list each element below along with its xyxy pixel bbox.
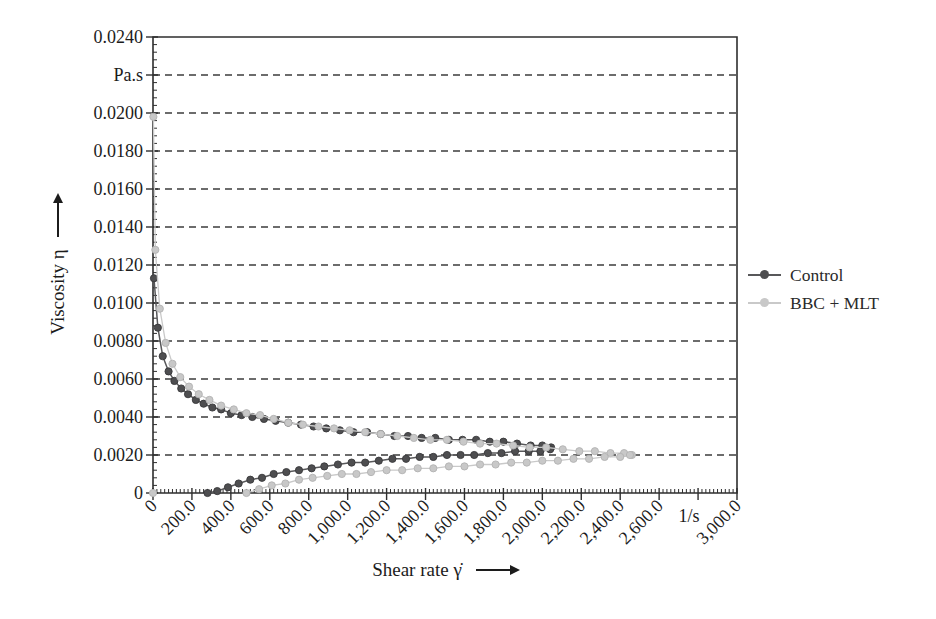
control-data-point (402, 455, 409, 462)
control-data-point (283, 469, 290, 476)
bbc-mlt-data-point (218, 402, 225, 409)
bbc-mlt-data-point (539, 457, 546, 464)
bbc-mlt-data-point (492, 461, 499, 468)
y-tick-label: 0.0120 (94, 255, 144, 275)
bbc-mlt-data-point (162, 339, 169, 346)
x-tick-label: 0 (140, 496, 161, 517)
bbc-mlt-data-point (299, 421, 306, 428)
control-data-point (224, 484, 231, 491)
bbc-mlt-data-point (383, 467, 390, 474)
bbc-mlt-data-point (315, 423, 322, 430)
y-tick-label: 0.0240 (94, 27, 144, 47)
bbc-mlt-upper-branch-line (153, 117, 631, 455)
control-data-point (178, 385, 185, 392)
bbc-mlt-data-point (177, 374, 184, 381)
y-tick-label: 0.0140 (94, 217, 144, 237)
y-tick-label: 0.0160 (94, 179, 144, 199)
bbc-mlt-data-point (576, 448, 583, 455)
control-data-point (457, 451, 464, 458)
bbc-mlt-data-point (309, 474, 316, 481)
control-data-point (375, 457, 382, 464)
y-axis-title: Viscosity η (45, 143, 71, 387)
bbc-mlt-data-point (523, 459, 530, 466)
bbc-mlt-data-point (285, 419, 292, 426)
bbc-mlt-data-point (353, 470, 360, 477)
y-tick-label: 0.0080 (94, 331, 144, 351)
control-data-point (308, 465, 315, 472)
y-tick-label: 0.0200 (94, 103, 144, 123)
control-data-point (498, 450, 505, 457)
control-data-point (150, 275, 157, 282)
bbc-mlt-data-point (476, 461, 483, 468)
x-tick-label: 3,000.0 (693, 496, 745, 548)
control-data-point (348, 459, 355, 466)
bbc-mlt-data-point (230, 406, 237, 413)
legend-item-bbc-mlt: BBC + MLT (748, 289, 879, 317)
bbc-mlt-data-point (169, 360, 176, 367)
bbc-mlt-data-point (243, 489, 250, 496)
bbc-mlt-data-point (443, 436, 450, 443)
y-tick-label: 0 (134, 483, 143, 503)
control-data-point (247, 476, 254, 483)
bbc-mlt-data-point (362, 429, 369, 436)
bbc-mlt-data-point (152, 246, 159, 253)
control-data-point (154, 324, 161, 331)
bbc-mlt-data-point (430, 465, 437, 472)
bbc-mlt-data-point (268, 482, 275, 489)
bbc-mlt-data-point (399, 467, 406, 474)
control-data-point (416, 453, 423, 460)
bbc-mlt-data-point (256, 412, 263, 419)
y-axis-arrow-icon (57, 195, 59, 237)
bbc-mlt-data-point (461, 463, 468, 470)
control-data-point (334, 461, 341, 468)
y-tick-label: 0.0040 (94, 407, 144, 427)
y-tick-label: 0.0180 (94, 141, 144, 161)
y-tick-label: 0.0060 (94, 369, 144, 389)
x-axis-title-text: Shear rate γ̇ (372, 559, 462, 581)
bbc-mlt-data-point (206, 396, 213, 403)
control-data-point (295, 467, 302, 474)
bbc-mlt-data-point (508, 459, 515, 466)
legend-item-control: Control (748, 261, 879, 289)
control-data-point (270, 470, 277, 477)
bbc-mlt-data-point (255, 486, 262, 493)
x-tick-label: 2,600.0 (615, 496, 667, 548)
bbc-mlt-data-point (149, 489, 156, 496)
x-tick-label: 600.0 (235, 496, 278, 539)
bbc-mlt-data-point (460, 438, 467, 445)
legend: Control BBC + MLT (748, 261, 879, 317)
bbc-mlt-data-point (493, 440, 500, 447)
control-data-point (235, 480, 242, 487)
bbc-mlt-data-point (346, 427, 353, 434)
legend-label-control: Control (790, 265, 843, 286)
control-data-point (209, 404, 216, 411)
bbc-mlt-data-point (554, 457, 561, 464)
bbc-mlt-data-point (626, 451, 633, 458)
control-data-point (165, 368, 172, 375)
bbc-mlt-data-point (150, 113, 157, 120)
bbc-mlt-data-point (185, 383, 192, 390)
bbc-mlt-data-point (510, 442, 517, 449)
control-data-point (443, 451, 450, 458)
bbc-mlt-data-point (591, 448, 598, 455)
control-data-point (471, 451, 478, 458)
control-data-point (321, 463, 328, 470)
x-tick-label: 400.0 (196, 496, 239, 539)
bbc-mlt-data-point (526, 444, 533, 451)
x-unit-label: 1/s (679, 506, 700, 526)
bbc-mlt-data-point (410, 434, 417, 441)
legend-label-bbc-mlt: BBC + MLT (790, 293, 879, 314)
bbc-mlt-data-point (559, 446, 566, 453)
bbc-mlt-data-point (324, 472, 331, 479)
y-tick-label: 0.0020 (94, 445, 144, 465)
bbc-mlt-data-point (338, 470, 345, 477)
bbc-mlt-series-marker-icon (748, 302, 781, 304)
y-unit-label: Pa.s (113, 65, 143, 85)
bbc-mlt-data-point (601, 453, 608, 460)
bbc-mlt-data-point (270, 415, 277, 422)
bbc-mlt-data-point (330, 425, 337, 432)
bbc-mlt-data-point (445, 463, 452, 470)
bbc-mlt-data-point (282, 480, 289, 487)
y-axis-title-text: Viscosity η (47, 249, 69, 334)
control-data-point (184, 391, 191, 398)
